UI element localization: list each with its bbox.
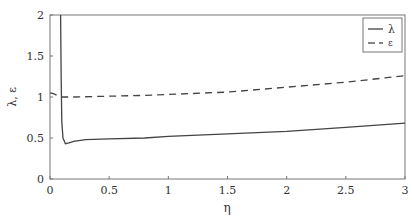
y-tick-label: 0.5 — [27, 132, 45, 145]
legend-label-epsilon: ε — [388, 38, 393, 48]
x-axis-label: η — [223, 201, 230, 215]
x-tick-label: 2.5 — [337, 184, 355, 197]
y-tick-label: 2 — [37, 9, 44, 22]
y-axis-label: λ, ε — [6, 87, 19, 107]
x-tick-label: 0.5 — [100, 184, 118, 197]
plot-area-border — [50, 15, 405, 179]
series-group — [50, 15, 405, 144]
legend-box — [363, 18, 402, 52]
y-tick-label: 0 — [37, 173, 44, 186]
y-tick-label: 1.5 — [27, 50, 45, 63]
x-tick-label: 1 — [165, 184, 172, 197]
y-axis-ticks: 00.511.52 — [27, 9, 54, 186]
x-tick-label: 2 — [283, 184, 290, 197]
legend-label-lambda: λ — [388, 23, 395, 36]
series-line-epsilon — [50, 76, 405, 97]
series-line-lambda — [61, 15, 405, 144]
x-tick-label: 1.5 — [219, 184, 237, 197]
y-tick-label: 1 — [37, 91, 44, 104]
x-tick-label: 0 — [47, 184, 54, 197]
x-tick-label: 3 — [402, 184, 409, 197]
plot-frame — [50, 15, 405, 179]
legend: λ ε — [363, 18, 402, 52]
chart: 00.511.522.53 00.511.52 η λ, ε λ ε — [0, 0, 420, 224]
